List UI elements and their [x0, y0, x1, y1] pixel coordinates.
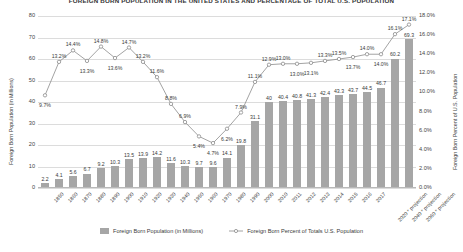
- x-axis-tick-label: 1900: [122, 191, 134, 203]
- bar-swatch-icon: [100, 228, 109, 234]
- x-axis-tick-label: 1980: [234, 191, 246, 203]
- legend-item-bar: Foreign Born Population (in Millions): [100, 228, 203, 234]
- y-axis-left-tick-label: 70: [29, 35, 35, 41]
- y-axis-right-tick-label: 12.0%: [419, 71, 435, 77]
- line-value-label: 14.4%: [66, 42, 81, 47]
- y-axis-right-tick-label: 6.0%: [419, 128, 432, 134]
- line-marker: [141, 60, 144, 63]
- y-axis-right-tick-label: 18.0%: [419, 13, 435, 19]
- y-axis-right-tick-label: 2.0%: [419, 166, 432, 172]
- line-value-label: 7.9%: [235, 104, 247, 109]
- legend-label-line: Foreign Born Percent of Totals U.S. Popu…: [247, 228, 363, 234]
- line-value-label: 12.9%: [262, 57, 277, 62]
- x-axis-tick-label: 2010: [276, 191, 288, 203]
- x-axis-tick-label: 1960: [206, 191, 218, 203]
- line-value-label: 14.0%: [360, 46, 375, 51]
- line-value-label: 13.0%: [290, 72, 305, 77]
- line-swatch-icon: [229, 228, 243, 234]
- line-marker: [365, 53, 368, 56]
- line-marker: [127, 46, 130, 49]
- y-axis-right-tick-label: 0.0%: [419, 185, 432, 191]
- line-marker: [253, 80, 256, 83]
- line-marker: [197, 135, 200, 138]
- line-marker: [57, 60, 60, 63]
- y-axis-right-tick-label: 14.0%: [419, 51, 435, 57]
- x-axis-tick-label: 1890: [108, 191, 120, 203]
- line-marker: [337, 57, 340, 60]
- x-axis-tick-label: 2013: [318, 191, 330, 203]
- line-marker: [309, 61, 312, 64]
- x-axis-tick-label: 1940: [178, 191, 190, 203]
- line-marker: [323, 59, 326, 62]
- line-value-label: 6.9%: [179, 114, 191, 119]
- y-axis-left-tick-label: 60: [29, 56, 35, 62]
- x-axis-tick-label: 2000: [262, 191, 274, 203]
- y-axis-left-tick-label: 20: [29, 142, 35, 148]
- line-value-label: 14.0%: [374, 62, 389, 67]
- line-value-label: 13.7%: [346, 65, 361, 70]
- y-axis-right-tick-label: 16.0%: [419, 32, 435, 38]
- x-axis-tick-label: 1970: [220, 191, 232, 203]
- line-value-label: 8.8%: [165, 96, 177, 101]
- gridline: [38, 188, 416, 189]
- line-value-label: 16.1%: [388, 26, 403, 31]
- x-axis-tick-label: 1920: [150, 191, 162, 203]
- x-axis-tick-label: 1880: [94, 191, 106, 203]
- line-value-label: 13.2%: [52, 54, 67, 59]
- legend-item-line: Foreign Born Percent of Totals U.S. Popu…: [229, 228, 363, 234]
- line-value-label: 4.7%: [207, 151, 219, 156]
- x-axis-tick-label: 1950: [192, 191, 204, 203]
- x-axis-tick-label: 1860: [66, 191, 78, 203]
- x-axis-tick-label: 2017: [374, 191, 386, 203]
- chart-container: FOREIGN BORN POPULATION IN THE UNITED ST…: [0, 0, 463, 252]
- line-marker: [113, 56, 116, 59]
- y-axis-left-tick-label: 30: [29, 121, 35, 127]
- line-value-label: 5.4%: [193, 144, 205, 149]
- line-value-label: 13.2%: [136, 54, 151, 59]
- x-axis-tick-label: 2011: [290, 191, 302, 203]
- y-axis-left-tick-label: 0: [32, 185, 35, 191]
- line-marker: [183, 120, 186, 123]
- line-value-label: 11.6%: [150, 69, 164, 74]
- x-axis-tick-label: 1910: [136, 191, 148, 203]
- line-value-label: 14.7%: [122, 39, 137, 44]
- x-axis-tick-label: 2015: [346, 191, 358, 203]
- line-marker: [85, 59, 88, 62]
- x-axis-tick-label: 2012: [304, 191, 316, 203]
- x-axis-tick-label: 1850: [52, 191, 64, 203]
- line-marker: [155, 75, 158, 78]
- y-axis-left-title: Foreign Born Population (in Millions): [8, 78, 14, 165]
- x-axis-tick-label: 1990: [248, 191, 260, 203]
- line-marker: [225, 127, 228, 130]
- x-axis-line: [38, 187, 416, 188]
- line-marker: [211, 141, 214, 144]
- line-marker: [393, 32, 396, 35]
- y-axis-left-tick-label: 10: [29, 164, 35, 170]
- plot-area: 01020304050607080 0.0%2.0%4.0%6.0%8.0%10…: [38, 16, 416, 188]
- line-marker: [43, 94, 46, 97]
- line-value-label: 13.1%: [304, 71, 319, 76]
- line-marker: [351, 55, 354, 58]
- line-marker: [295, 62, 298, 65]
- line-marker: [239, 111, 242, 114]
- line-marker: [267, 63, 270, 66]
- y-axis-right-title: Foreign Born Percent of U.S. Population: [452, 74, 458, 170]
- line-value-label: 14.8%: [94, 38, 109, 43]
- legend-label-bar: Foreign Born Population (in Millions): [113, 228, 203, 234]
- chart-legend: Foreign Born Population (in Millions) Fo…: [0, 228, 463, 234]
- line-marker: [71, 49, 74, 52]
- y-axis-left-tick-label: 40: [29, 99, 35, 105]
- x-axis-tick-label: 1930: [164, 191, 176, 203]
- x-axis-tick-label: 2016: [360, 191, 372, 203]
- line-marker: [407, 23, 410, 26]
- y-axis-left-tick-label: 50: [29, 78, 35, 84]
- line-value-label: 9.7%: [39, 103, 51, 108]
- line-value-label: 6.2%: [221, 137, 233, 142]
- line-value-label: 11.1%: [248, 74, 262, 79]
- line-value-label: 13.0%: [276, 56, 291, 61]
- line-value-label: 17.1%: [402, 16, 417, 21]
- line-marker: [169, 102, 172, 105]
- line-value-label: 13.6%: [108, 66, 123, 71]
- y-axis-right-tick-label: 4.0%: [419, 147, 432, 153]
- x-axis-tick-label: 2014: [332, 191, 344, 203]
